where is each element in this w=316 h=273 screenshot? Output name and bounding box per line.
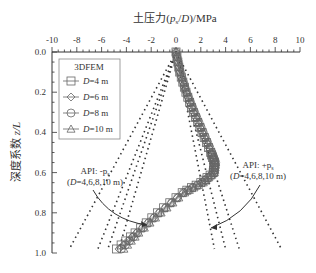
- svg-text:(D=4,6,8,10 m): (D=4,6,8,10 m): [230, 171, 286, 181]
- legend-item-diamond: D=6 m: [82, 92, 108, 102]
- svg-text:API: +ps: API: +ps: [242, 160, 274, 171]
- x-axis-label: 土压力(ps/D)/MPa: [133, 12, 217, 26]
- svg-text:0.6: 0.6: [35, 168, 47, 178]
- svg-text:0.4: 0.4: [35, 127, 47, 137]
- svg-text:4: 4: [223, 35, 228, 45]
- y-axis-ticks: 0.00.20.40.60.81.0: [35, 47, 57, 258]
- svg-text:2: 2: [199, 35, 204, 45]
- legend-item-circle: D=8 m: [82, 108, 108, 118]
- annotation-api-minus: API: -ps (D=4,6,8,10 m): [67, 166, 147, 227]
- svg-text:1.0: 1.0: [35, 248, 47, 258]
- svg-text:0.8: 0.8: [35, 208, 47, 218]
- series-square: [112, 48, 218, 253]
- svg-text:10: 10: [296, 35, 306, 45]
- legend-title: 3DFEM: [74, 62, 104, 72]
- svg-text:6: 6: [248, 35, 253, 45]
- svg-text:-4: -4: [123, 35, 131, 45]
- svg-text:-10: -10: [46, 35, 58, 45]
- series-diamond: [115, 48, 218, 253]
- legend-item-triangle: D=10 m: [82, 124, 113, 134]
- svg-text:0.0: 0.0: [35, 47, 47, 57]
- svg-text:0: 0: [174, 35, 179, 45]
- fem-series: [112, 48, 219, 253]
- svg-text:8: 8: [273, 35, 278, 45]
- legend-item-square: D=4 m: [82, 76, 108, 86]
- legend: 3DFEM D=4 mD=6 mD=8 mD=10 m: [59, 59, 120, 139]
- y-axis-label: 深度系数 z/L: [9, 122, 22, 182]
- earth-pressure-chart: 土压力(ps/D)/MPa -10-8-6-4-20246810 0.00.20…: [0, 0, 316, 273]
- svg-text:-8: -8: [73, 35, 81, 45]
- svg-text:(D=4,6,8,10 m): (D=4,6,8,10 m): [67, 177, 123, 187]
- svg-text:-6: -6: [98, 35, 106, 45]
- svg-text:API: -ps: API: -ps: [80, 166, 110, 177]
- svg-text:0.2: 0.2: [35, 87, 46, 97]
- svg-text:-2: -2: [147, 35, 155, 45]
